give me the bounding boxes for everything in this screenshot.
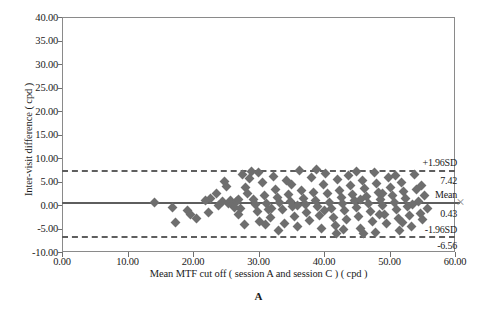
x-tick-label: 20.00: [163, 256, 223, 267]
y-tick-mark: [57, 17, 62, 18]
x-tick-label: 60.00: [425, 256, 478, 267]
x-tick-label: 30.00: [229, 256, 289, 267]
bland-altman-figure: -10.00-5.000.005.0010.0015.0020.0025.003…: [0, 0, 478, 312]
x-tick-mark: [62, 252, 63, 257]
y-tick-mark: [57, 64, 62, 65]
y-tick-label: 40.00: [0, 12, 58, 23]
x-tick-mark: [259, 252, 260, 257]
y-axis-title: Inter-visit difference ( cpd ): [23, 40, 34, 240]
x-tick-mark: [324, 252, 325, 257]
panel-label: A: [62, 290, 455, 302]
x-tick-mark: [193, 252, 194, 257]
y-tick-mark: [57, 229, 62, 230]
y-tick-mark: [57, 205, 62, 206]
lower-limit-of-agreement: [62, 236, 455, 238]
x-tick-label: 10.00: [98, 256, 158, 267]
y-tick-mark: [57, 135, 62, 136]
y-tick-mark: [57, 182, 62, 183]
x-tick-label: 40.00: [294, 256, 354, 267]
x-tick-mark: [128, 252, 129, 257]
y-tick-mark: [57, 111, 62, 112]
y-tick-mark: [57, 158, 62, 159]
x-tick-label: 0.00: [32, 256, 92, 267]
upper-limit-label: +1.96SD: [387, 157, 457, 168]
x-tick-mark: [390, 252, 391, 257]
y-tick-mark: [57, 88, 62, 89]
x-axis-title: Mean MTF cut off ( session A and session…: [62, 268, 455, 279]
x-tick-label: 50.00: [360, 256, 420, 267]
x-tick-mark: [455, 252, 456, 257]
y-tick-mark: [57, 41, 62, 42]
lower-limit-value: -6.56: [387, 240, 457, 251]
